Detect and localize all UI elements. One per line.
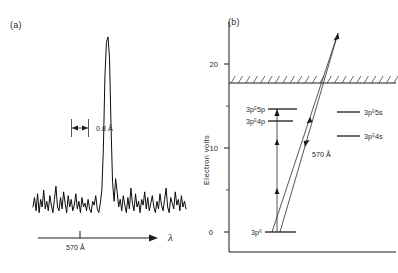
ionization-limit bbox=[229, 76, 398, 83]
level-label-3p6: 3p⁶ bbox=[251, 228, 262, 237]
panel-b-y-axis bbox=[224, 22, 229, 252]
emission-arrow-570 bbox=[280, 33, 338, 232]
vertical-cascade-arrow bbox=[274, 109, 279, 232]
y-tick-0: 0 bbox=[209, 228, 213, 237]
y-axis-title: Electron volts bbox=[202, 135, 211, 185]
level-label-3p5-4s: 3p⁵4s bbox=[364, 132, 383, 141]
level-label-3p5-5s: 3p⁵5s bbox=[364, 108, 383, 117]
level-label-3p5-5p: 3p⁵5p bbox=[246, 105, 265, 114]
level-label-3p5-4p: 3p⁵4p bbox=[246, 117, 265, 126]
y-tick-20: 20 bbox=[210, 60, 218, 69]
panel-b-plot: 0 10 20 Electron volts 3p⁶ 3p⁵4p 3p⁵5p 3… bbox=[0, 0, 398, 273]
figure-container: (a) (b) 0.8 Å 570 Å λ bbox=[0, 0, 398, 273]
transition-label-570: 570 Å bbox=[312, 150, 331, 159]
